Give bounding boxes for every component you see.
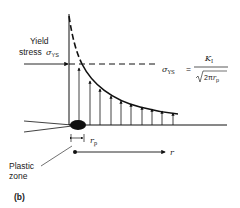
svg-text:KI: KI	[204, 54, 213, 64]
r-axis-label: r	[170, 148, 175, 157]
stress-distribution-diagram: Yield stress σYS σYS = KI 2πrp rp r Plas…	[0, 0, 240, 208]
svg-text:=: =	[186, 64, 191, 74]
yield-formula: σYS = KI 2πrp	[162, 54, 228, 83]
plastic-zone-label-line2: zone	[9, 171, 28, 181]
yield-label-line2: stress σYS	[19, 47, 59, 58]
stress-arrows	[79, 68, 173, 125]
crack-face-upper	[24, 121, 72, 125]
elastic-curve-dashed	[69, 16, 82, 64]
figure-caption: (b)	[14, 192, 25, 202]
rp-label: rp	[90, 136, 98, 147]
yield-label-line1: Yield	[30, 36, 49, 46]
rp-dimension	[71, 134, 84, 142]
plastic-zone-leader	[41, 146, 72, 166]
svg-text:2πrp: 2πrp	[204, 74, 219, 83]
plastic-zone-label-line1: Plastic	[9, 161, 35, 171]
plastic-zone-ellipse	[70, 120, 86, 130]
crack-face-lower	[24, 126, 72, 132]
svg-text:σYS: σYS	[162, 65, 175, 75]
